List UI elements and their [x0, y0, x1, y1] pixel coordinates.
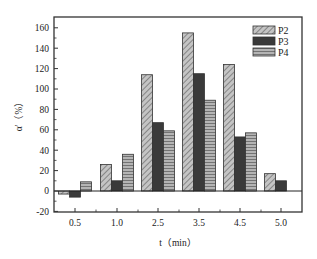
legend: P2P3P4: [253, 25, 289, 58]
legend-label-p3: P3: [278, 36, 289, 47]
x-tick-label: 5.0: [275, 218, 287, 228]
bar-p3-3.5: [194, 74, 205, 191]
bar-p2-2.5: [142, 75, 153, 191]
x-tick-label: 2.5: [152, 218, 164, 228]
y-tick-label: 80: [40, 105, 50, 115]
bar-p3-2.5: [153, 123, 164, 191]
bar-series-group: [59, 33, 287, 197]
x-tick-label: 0.5: [69, 218, 81, 228]
y-tick-label: 20: [40, 166, 50, 176]
bar-p2-1.0: [101, 164, 112, 191]
legend-label-p2: P2: [278, 25, 289, 36]
legend-swatch-p3: [253, 37, 275, 45]
x-axis: 0.51.02.53.54.55.0: [69, 208, 287, 228]
bar-p4-2.5: [164, 131, 175, 191]
bar-p2-4.5: [224, 65, 235, 191]
y-tick-label: 120: [35, 64, 50, 74]
bar-p4-3.5: [205, 100, 216, 191]
y-tick-label: 40: [40, 146, 50, 156]
bar-p3-4.5: [235, 137, 246, 191]
y-tick-label: 60: [40, 125, 50, 135]
legend-swatch-p4: [253, 48, 275, 56]
legend-label-p4: P4: [278, 47, 289, 58]
bar-p3-0.5: [70, 191, 81, 197]
x-axis-title: t（min）: [159, 237, 196, 248]
x-tick-label: 4.5: [234, 218, 246, 228]
bar-p4-1.0: [123, 154, 134, 191]
y-axis-title: α'（%）: [13, 97, 24, 132]
bar-p2-3.5: [183, 33, 194, 191]
y-tick-label: 140: [35, 44, 50, 54]
bar-p4-0.5: [81, 182, 92, 191]
y-tick-label: -20: [36, 207, 49, 217]
bar-p2-5.0: [265, 174, 276, 191]
bar-chart: -20020406080100120140160 0.51.02.53.54.5…: [0, 0, 317, 259]
x-tick-label: 1.0: [111, 218, 123, 228]
bar-p3-5.0: [276, 181, 287, 191]
bar-p4-4.5: [246, 133, 257, 191]
x-tick-label: 3.5: [193, 218, 205, 228]
bar-p3-1.0: [112, 181, 123, 191]
y-tick-label: 0: [44, 186, 49, 196]
y-tick-label: 160: [35, 23, 50, 33]
y-tick-label: 100: [35, 84, 50, 94]
legend-swatch-p2: [253, 26, 275, 34]
